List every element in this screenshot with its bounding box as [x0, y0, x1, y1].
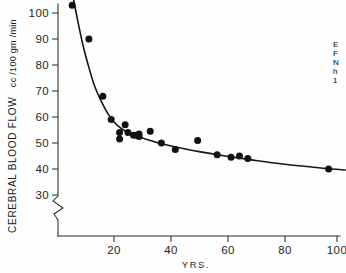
chart-canvas: 100 90 80 70 60 50 40 30 20 40 60 80 100…: [0, 0, 346, 273]
data-point: [147, 128, 154, 135]
cropped-line: F: [333, 49, 339, 58]
cropped-margin-note: E F N h 1: [333, 40, 339, 85]
fit-curve: [72, 0, 345, 170]
x-tick-label: 60: [221, 244, 235, 256]
data-point: [85, 36, 92, 43]
data-point: [214, 151, 221, 158]
data-point: [116, 136, 123, 143]
data-point: [194, 137, 201, 144]
x-tick-label: 40: [164, 244, 178, 256]
x-tick-label: 100: [327, 244, 346, 256]
data-point: [236, 153, 243, 160]
y-tick-label: 40: [35, 163, 49, 175]
data-point: [325, 166, 332, 173]
data-point-layer: [69, 2, 332, 173]
y-tick-label: 50: [35, 137, 49, 149]
data-point: [158, 140, 165, 147]
y-tick-label: 80: [35, 59, 49, 71]
cropped-line: 1: [333, 76, 339, 85]
data-point: [69, 2, 76, 9]
data-point: [228, 154, 235, 161]
y-tick-label: 60: [35, 111, 49, 123]
x-tick-label: 20: [107, 244, 121, 256]
y-tick-label: 90: [35, 33, 49, 45]
y-tick-label: 30: [35, 189, 49, 201]
y-tick-label: 100: [29, 7, 49, 19]
y-axis-title-unit: cc /100 gm /min: [8, 19, 18, 87]
data-point: [136, 133, 143, 140]
data-point: [108, 116, 115, 123]
data-point: [244, 155, 251, 162]
x-tick-group: [114, 236, 337, 242]
figure-panel: 100 90 80 70 60 50 40 30 20 40 60 80 100…: [0, 0, 346, 273]
x-tick-label: 80: [278, 244, 292, 256]
cropped-line: E: [333, 40, 339, 49]
data-point: [99, 93, 106, 100]
cropped-line: N: [333, 58, 339, 67]
y-axis-title: CEREBRAL BLOOD FLOW cc /100 gm /min: [7, 19, 18, 233]
data-point: [116, 129, 123, 136]
cropped-line: h: [333, 67, 339, 76]
y-tick-group: [52, 13, 58, 195]
y-tick-label: 70: [35, 85, 49, 97]
y-axis-break-icon: [53, 196, 63, 220]
data-point: [122, 121, 129, 128]
y-axis-title-main: CEREBRAL BLOOD FLOW: [7, 97, 18, 233]
data-point: [172, 146, 179, 153]
x-axis-title: YRS.: [182, 259, 211, 270]
